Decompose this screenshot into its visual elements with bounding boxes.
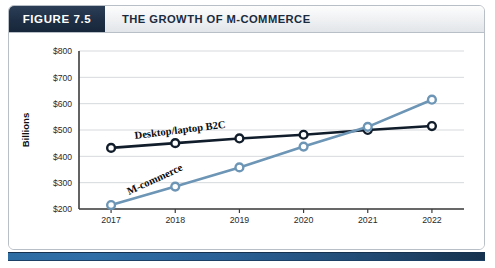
figure-title-block: THE GROWTH OF M-COMMERCE bbox=[105, 6, 484, 32]
series-data-point bbox=[171, 139, 179, 147]
series-data-point bbox=[171, 183, 179, 191]
x-axis-tick-label: 2021 bbox=[358, 215, 378, 225]
line-chart: $800$700$600$500$400$300$200 20172018201… bbox=[9, 33, 485, 250]
x-axis-tick-label: 2018 bbox=[165, 215, 185, 225]
figure-header: FIGURE 7.5 THE GROWTH OF M-COMMERCE bbox=[9, 6, 484, 33]
y-axis-tick-label: $800 bbox=[53, 46, 72, 56]
series-data-point bbox=[300, 143, 308, 151]
series-data-point bbox=[364, 123, 372, 131]
series-data-point bbox=[300, 131, 308, 139]
bottom-decorative-rule bbox=[8, 252, 485, 261]
figure-card: FIGURE 7.5 THE GROWTH OF M-COMMERCE $800… bbox=[8, 5, 485, 250]
y-axis-tick-labels: $800$700$600$500$400$300$200 bbox=[53, 46, 72, 214]
figure-number-label: FIGURE 7.5 bbox=[23, 13, 92, 25]
y-axis-tick-label: $400 bbox=[53, 152, 72, 162]
x-axis-tick-label: 2020 bbox=[294, 215, 314, 225]
series-line bbox=[111, 100, 432, 205]
series-label-desktop-laptop-b2c: Desktop/laptop B2C bbox=[134, 119, 226, 141]
series-data-point bbox=[428, 96, 436, 104]
y-axis-tick-label: $700 bbox=[53, 73, 72, 83]
y-axis-title: Billions bbox=[20, 113, 31, 148]
x-axis-tick-label: 2019 bbox=[230, 215, 250, 225]
y-axis-tick-label: $500 bbox=[53, 125, 72, 135]
x-axis-tick-labels: 201720182019202020212022 bbox=[101, 215, 442, 225]
y-axis-tick-label: $600 bbox=[53, 99, 72, 109]
series-data-point bbox=[107, 144, 115, 152]
series-group bbox=[107, 96, 436, 209]
x-axis-tick-label: 2017 bbox=[101, 215, 121, 225]
y-axis-tick-label: $300 bbox=[53, 178, 72, 188]
figure-title: THE GROWTH OF M-COMMERCE bbox=[122, 13, 311, 25]
series-data-point bbox=[236, 163, 244, 171]
x-axis-tick-label: 2022 bbox=[422, 215, 442, 225]
series-data-point bbox=[236, 135, 244, 143]
series-data-point bbox=[107, 201, 115, 209]
y-axis-tick-label: $200 bbox=[53, 204, 72, 214]
figure-number-block: FIGURE 7.5 bbox=[9, 6, 105, 32]
chart-body: $800$700$600$500$400$300$200 20172018201… bbox=[9, 33, 484, 249]
series-data-point bbox=[428, 122, 436, 130]
